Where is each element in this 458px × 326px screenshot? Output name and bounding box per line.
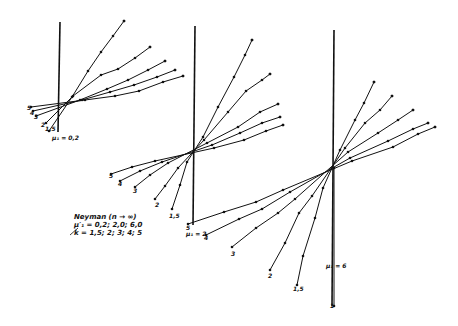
data-point xyxy=(72,95,75,98)
mu-label: μ₁ = 6 xyxy=(325,262,346,270)
k-label: 2 xyxy=(155,201,159,208)
data-point xyxy=(238,218,241,221)
data-point xyxy=(203,139,206,142)
data-point xyxy=(261,208,264,211)
data-point xyxy=(123,20,126,23)
data-point xyxy=(314,217,317,220)
k-label: 2 xyxy=(268,272,272,279)
data-point xyxy=(349,157,352,160)
data-point xyxy=(109,91,112,94)
data-point xyxy=(106,88,109,91)
k-label: 3 xyxy=(133,187,137,194)
data-point xyxy=(261,122,264,125)
data-point xyxy=(289,191,292,194)
curve-k-1,5 xyxy=(172,40,252,209)
data-point xyxy=(227,111,230,114)
data-point xyxy=(417,133,420,136)
data-point xyxy=(397,119,400,122)
data-point xyxy=(347,151,350,154)
data-point xyxy=(269,269,272,272)
data-point xyxy=(279,116,282,119)
k-label: 4 xyxy=(204,234,208,241)
curve-k-4 xyxy=(120,117,280,181)
k-label: 1 xyxy=(330,302,334,309)
data-point xyxy=(164,60,167,63)
curve-k-5 xyxy=(188,127,435,224)
legend-k-values: k = 1,5; 2; 3; 4; 5 xyxy=(74,229,142,237)
legend-mu-values: μ′₁ = 0,2; 2,0; 6,0 xyxy=(74,221,142,229)
data-point xyxy=(364,122,367,125)
data-point xyxy=(282,124,285,127)
data-point xyxy=(322,187,325,190)
data-point xyxy=(333,167,336,170)
mu-label: μ₁ = 0,2 xyxy=(51,134,79,142)
data-point xyxy=(261,79,264,82)
data-point xyxy=(139,170,142,173)
data-point xyxy=(269,73,272,76)
data-point xyxy=(363,102,366,105)
data-point xyxy=(154,160,157,163)
data-point xyxy=(344,147,347,150)
curve-k-5 xyxy=(111,125,283,174)
data-point xyxy=(117,68,120,71)
data-point xyxy=(245,90,248,93)
legend: Neyman (n → ∞) μ′₁ = 0,2; 2,0; 6,0 k = 1… xyxy=(74,213,142,237)
data-point xyxy=(233,76,236,79)
data-point xyxy=(311,195,314,198)
data-point xyxy=(339,149,342,152)
data-point xyxy=(174,69,177,72)
curve-k-3 xyxy=(232,110,413,247)
data-point xyxy=(277,103,280,106)
k-label: 3 xyxy=(231,250,235,257)
data-point xyxy=(133,84,136,87)
data-point xyxy=(412,128,415,131)
data-point xyxy=(255,201,258,204)
data-point xyxy=(100,74,103,77)
data-point xyxy=(265,130,268,133)
data-point xyxy=(149,46,152,49)
data-point xyxy=(392,146,395,149)
data-point xyxy=(391,95,394,98)
data-point xyxy=(213,147,216,150)
data-point xyxy=(167,162,170,165)
data-point xyxy=(202,136,205,139)
curve-k-1,5 xyxy=(297,82,374,285)
data-point xyxy=(354,119,357,122)
data-point xyxy=(284,242,287,245)
data-point xyxy=(114,95,117,98)
data-point xyxy=(211,144,214,147)
legend-title: Neyman (n → ∞) xyxy=(74,213,142,221)
data-point xyxy=(244,54,247,57)
data-point xyxy=(179,184,182,187)
data-point xyxy=(294,198,297,201)
data-point xyxy=(255,227,258,230)
data-point xyxy=(134,57,137,60)
data-point xyxy=(161,161,164,164)
k-label: 5 xyxy=(186,224,190,231)
data-point xyxy=(112,35,115,38)
k-label: 4 xyxy=(118,180,122,187)
curve-k-3 xyxy=(135,104,278,187)
data-point xyxy=(186,161,189,164)
data-point xyxy=(100,51,103,54)
k-label: 1,5 xyxy=(169,212,180,219)
data-point xyxy=(206,142,209,145)
data-point xyxy=(149,174,152,177)
k-label: 1,5 xyxy=(293,285,304,292)
data-point xyxy=(379,109,382,112)
data-point xyxy=(298,212,301,215)
data-point xyxy=(427,122,430,125)
data-point xyxy=(127,79,130,82)
data-point xyxy=(177,167,180,170)
group-mu-6: 54321,51μ₁ = 6 xyxy=(186,30,436,309)
data-point xyxy=(171,208,174,211)
data-point xyxy=(231,246,234,249)
data-point xyxy=(131,166,134,169)
data-point xyxy=(84,99,87,102)
k-label: 3 xyxy=(34,113,38,120)
data-point xyxy=(387,140,390,143)
data-point xyxy=(302,255,305,258)
data-point xyxy=(237,126,240,129)
curve-k-5 xyxy=(31,76,183,107)
data-point xyxy=(434,126,437,129)
